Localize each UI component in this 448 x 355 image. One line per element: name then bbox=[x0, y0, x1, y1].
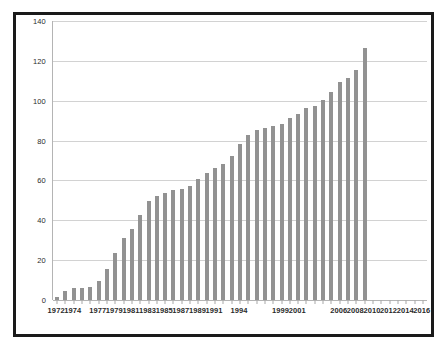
bar[interactable] bbox=[163, 193, 167, 300]
bar-slot[interactable] bbox=[153, 21, 161, 300]
y-tick-label: 80 bbox=[37, 136, 46, 145]
bar[interactable] bbox=[329, 92, 333, 300]
bar[interactable] bbox=[147, 201, 151, 300]
bar-slot[interactable] bbox=[244, 21, 252, 300]
bar-slot[interactable] bbox=[86, 21, 94, 300]
bar-slot[interactable] bbox=[228, 21, 236, 300]
bar[interactable] bbox=[280, 124, 284, 300]
bar[interactable] bbox=[155, 196, 159, 300]
bar-slot[interactable] bbox=[302, 21, 310, 300]
y-tick-label: 100 bbox=[33, 96, 46, 105]
x-tick-mark bbox=[223, 300, 224, 304]
x-tick-mark bbox=[140, 300, 141, 304]
bar-slot[interactable] bbox=[286, 21, 294, 300]
bar-slot[interactable] bbox=[211, 21, 219, 300]
bar-slot[interactable] bbox=[128, 21, 136, 300]
x-tick-mark bbox=[239, 300, 240, 304]
bar[interactable] bbox=[213, 168, 217, 300]
bar[interactable] bbox=[313, 106, 317, 300]
bar-slot[interactable] bbox=[219, 21, 227, 300]
bar[interactable] bbox=[238, 144, 242, 300]
x-tick-mark bbox=[115, 300, 116, 304]
bar-slot[interactable] bbox=[410, 21, 418, 300]
bar[interactable] bbox=[230, 156, 234, 300]
bar-slot[interactable] bbox=[361, 21, 369, 300]
bar[interactable] bbox=[221, 164, 225, 301]
bar[interactable] bbox=[188, 186, 192, 300]
y-tick-label: 140 bbox=[33, 17, 46, 26]
y-axis: 020406080100120140 bbox=[16, 15, 50, 334]
bar[interactable] bbox=[63, 291, 67, 300]
bar-slot[interactable] bbox=[402, 21, 410, 300]
bar-slot[interactable] bbox=[277, 21, 285, 300]
bar[interactable] bbox=[246, 135, 250, 300]
plot-area bbox=[52, 21, 427, 300]
bar[interactable] bbox=[88, 287, 92, 300]
x-tick-label: 2014 bbox=[397, 306, 414, 315]
x-tick-label: 1974 bbox=[64, 306, 81, 315]
bar[interactable] bbox=[205, 173, 209, 300]
bar[interactable] bbox=[171, 190, 175, 300]
bar[interactable] bbox=[80, 288, 84, 300]
bar-slot[interactable] bbox=[70, 21, 78, 300]
bar-slot[interactable] bbox=[394, 21, 402, 300]
bar-slot[interactable] bbox=[311, 21, 319, 300]
x-tick-mark bbox=[90, 300, 91, 304]
bar[interactable] bbox=[180, 189, 184, 300]
bar-slot[interactable] bbox=[319, 21, 327, 300]
bar[interactable] bbox=[130, 229, 134, 300]
bar-slot[interactable] bbox=[377, 21, 385, 300]
bar-slot[interactable] bbox=[186, 21, 194, 300]
x-tick-mark bbox=[356, 300, 357, 304]
bar-slot[interactable] bbox=[327, 21, 335, 300]
bar[interactable] bbox=[296, 114, 300, 300]
bar[interactable] bbox=[105, 269, 109, 300]
bar[interactable] bbox=[122, 238, 126, 300]
bar-slot[interactable] bbox=[95, 21, 103, 300]
bar-slot[interactable] bbox=[369, 21, 377, 300]
bar[interactable] bbox=[321, 100, 325, 300]
bar-slot[interactable] bbox=[111, 21, 119, 300]
bar-slot[interactable] bbox=[236, 21, 244, 300]
bar-slot[interactable] bbox=[161, 21, 169, 300]
bar-slot[interactable] bbox=[252, 21, 260, 300]
bar-slot[interactable] bbox=[269, 21, 277, 300]
bar[interactable] bbox=[72, 288, 76, 300]
bar[interactable] bbox=[113, 253, 117, 300]
bar[interactable] bbox=[288, 118, 292, 300]
bar-slot[interactable] bbox=[53, 21, 61, 300]
bar-chart: 020406080100120140 197219741977197919811… bbox=[16, 15, 431, 334]
bar[interactable] bbox=[346, 78, 350, 300]
bar[interactable] bbox=[263, 128, 267, 300]
bar-slot[interactable] bbox=[169, 21, 177, 300]
bar-slot[interactable] bbox=[78, 21, 86, 300]
bar[interactable] bbox=[363, 48, 367, 300]
bar-slot[interactable] bbox=[136, 21, 144, 300]
bar[interactable] bbox=[338, 82, 342, 300]
bar[interactable] bbox=[138, 215, 142, 300]
x-tick-label: 1977 bbox=[89, 306, 106, 315]
x-tick-label: 1981 bbox=[122, 306, 139, 315]
bar-slot[interactable] bbox=[103, 21, 111, 300]
bar-slot[interactable] bbox=[352, 21, 360, 300]
bar-slot[interactable] bbox=[203, 21, 211, 300]
bar-slot[interactable] bbox=[261, 21, 269, 300]
bar[interactable] bbox=[97, 281, 101, 300]
bar-slot[interactable] bbox=[344, 21, 352, 300]
x-tick-mark bbox=[98, 300, 99, 304]
bar[interactable] bbox=[304, 108, 308, 300]
bar-slot[interactable] bbox=[385, 21, 393, 300]
bar-slot[interactable] bbox=[178, 21, 186, 300]
bar[interactable] bbox=[354, 70, 358, 300]
bar-slot[interactable] bbox=[119, 21, 127, 300]
bar-slot[interactable] bbox=[144, 21, 152, 300]
bar[interactable] bbox=[271, 126, 275, 300]
x-tick-mark bbox=[381, 300, 382, 304]
bar-slot[interactable] bbox=[419, 21, 427, 300]
bar[interactable] bbox=[255, 130, 259, 300]
bar-slot[interactable] bbox=[194, 21, 202, 300]
bar-slot[interactable] bbox=[336, 21, 344, 300]
bar-slot[interactable] bbox=[61, 21, 69, 300]
bar[interactable] bbox=[196, 179, 200, 300]
bar-slot[interactable] bbox=[294, 21, 302, 300]
